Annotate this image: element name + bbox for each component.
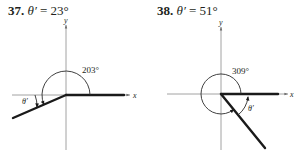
diagram-38: x y 309° θ′ [167, 18, 294, 150]
terminal-side [221, 94, 265, 148]
y-axis-label: y [63, 16, 68, 25]
reference-angle-arc [35, 95, 37, 107]
angle-label: 309° [232, 66, 250, 76]
reference-angle-arc [238, 97, 248, 115]
angle-diagrams: x y 203° θ′ x y 309° θ′ [0, 0, 297, 168]
angle-label: 203° [82, 65, 100, 75]
terminal-side [13, 95, 66, 118]
y-axis-label: y [218, 18, 223, 27]
reference-angle-label: θ′ [22, 97, 28, 106]
reference-angle-label: θ′ [248, 104, 254, 113]
x-axis-label: x [132, 91, 137, 100]
diagram-37: x y 203° θ′ [12, 16, 137, 150]
x-axis-label: x [289, 90, 294, 99]
